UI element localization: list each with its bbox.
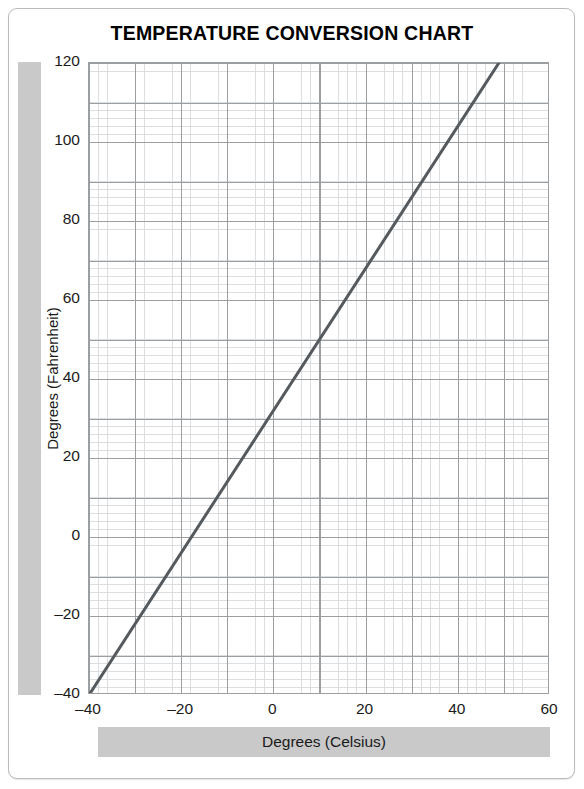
x-tick-label: –40	[58, 700, 118, 718]
y-tick-label: 120	[36, 52, 80, 70]
x-axis-label: Degrees (Celsius)	[98, 727, 550, 757]
x-axis-label-band: Degrees (Celsius)	[98, 727, 550, 757]
x-tick-label: 20	[335, 700, 395, 718]
conversion-line	[89, 63, 549, 694]
x-axis-tick-labels: –40–200204060	[88, 700, 549, 722]
y-tick-label: 20	[36, 447, 80, 465]
x-tick-label: 60	[519, 700, 579, 718]
x-tick-label: 40	[427, 700, 487, 718]
plot-area	[88, 62, 549, 694]
y-tick-label: 100	[36, 131, 80, 149]
y-axis-tick-labels: –40–20020406080100120	[32, 62, 80, 694]
y-tick-label: 40	[36, 368, 80, 386]
chart-page: TEMPERATURE CONVERSION CHART Degrees (Fa…	[0, 0, 584, 789]
x-tick-label: 0	[242, 700, 302, 718]
y-tick-label: –20	[36, 605, 80, 623]
y-tick-label: 60	[36, 289, 80, 307]
x-tick-label: –20	[150, 700, 210, 718]
y-tick-label: 0	[36, 526, 80, 544]
page-title: TEMPERATURE CONVERSION CHART	[0, 22, 584, 45]
y-tick-label: 80	[36, 210, 80, 228]
conversion-line-svg	[89, 63, 549, 694]
